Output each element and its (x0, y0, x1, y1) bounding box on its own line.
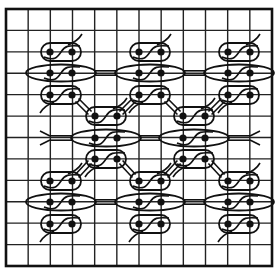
dot (135, 91, 142, 98)
dot (68, 69, 75, 76)
dot (246, 91, 253, 98)
dot (113, 134, 120, 141)
dot (246, 198, 253, 205)
dot (135, 220, 142, 227)
dot (246, 69, 253, 76)
dot (68, 220, 75, 227)
dot (224, 69, 231, 76)
dot (91, 155, 98, 162)
dot (246, 48, 253, 55)
dot (46, 198, 53, 205)
dot (201, 155, 208, 162)
dot (68, 48, 75, 55)
dot (46, 69, 53, 76)
dot (91, 112, 98, 119)
dot (157, 220, 164, 227)
lattice-diagram (0, 0, 279, 272)
dot (224, 177, 231, 184)
dot (91, 134, 98, 141)
dot (135, 69, 142, 76)
dot (157, 48, 164, 55)
dot (68, 198, 75, 205)
dot (46, 91, 53, 98)
dot (224, 220, 231, 227)
dot (135, 48, 142, 55)
dot (46, 177, 53, 184)
dot (135, 198, 142, 205)
dot (224, 91, 231, 98)
dot (179, 112, 186, 119)
dot (157, 198, 164, 205)
dot (246, 220, 253, 227)
dot (113, 155, 120, 162)
dot (68, 91, 75, 98)
dot (179, 134, 186, 141)
dot (201, 112, 208, 119)
dot (135, 177, 142, 184)
dot (113, 112, 120, 119)
dot (224, 198, 231, 205)
dot (46, 48, 53, 55)
dot (157, 177, 164, 184)
dot (246, 177, 253, 184)
dot (179, 155, 186, 162)
dot (157, 69, 164, 76)
dot (201, 134, 208, 141)
dot (46, 220, 53, 227)
dot (224, 48, 231, 55)
dot (68, 177, 75, 184)
dot (157, 91, 164, 98)
